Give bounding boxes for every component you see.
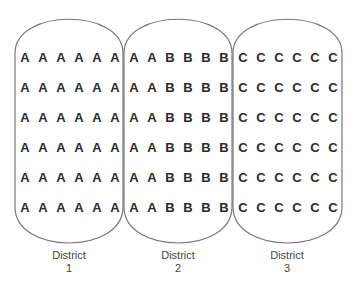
voter-cell: B [183, 50, 192, 65]
district-2-number: 2 [175, 262, 181, 274]
district-1-number: 1 [66, 262, 72, 274]
voter-cell: A [74, 50, 84, 65]
voter-cell: C [274, 80, 284, 95]
voter-cell: A [74, 200, 84, 215]
district-1-outline [15, 19, 123, 243]
voter-cell: C [292, 170, 302, 185]
voter-cell: A [38, 110, 48, 125]
voter-cell: B [183, 170, 192, 185]
voter-cell: C [292, 80, 302, 95]
voter-grid: AAAAAAAAAAAAAAAAAAAAAAAAAAAAAAAAAAAAAABB… [20, 50, 338, 215]
voter-cell: C [292, 200, 302, 215]
voter-cell: A [129, 50, 139, 65]
voter-cell: A [147, 80, 157, 95]
district-3-outline [233, 19, 342, 243]
voter-cell: C [274, 170, 284, 185]
voter-cell: C [274, 110, 284, 125]
voter-cell: B [183, 140, 192, 155]
voter-cell: A [110, 50, 120, 65]
voter-cell: B [219, 140, 228, 155]
voter-cell: B [201, 80, 210, 95]
voter-cell: B [165, 50, 174, 65]
voter-cell: A [129, 80, 139, 95]
voter-cell: B [201, 110, 210, 125]
voter-cell: C [328, 170, 338, 185]
voter-cell: C [256, 110, 266, 125]
voter-cell: A [92, 170, 102, 185]
voter-cell: C [310, 50, 320, 65]
voter-cell: A [56, 50, 66, 65]
voter-cell: C [256, 50, 266, 65]
voter-cell: A [56, 140, 66, 155]
district-3-number: 3 [284, 262, 290, 274]
voter-cell: C [274, 50, 284, 65]
voter-cell: B [219, 110, 228, 125]
voter-cell: C [256, 170, 266, 185]
voter-cell: B [201, 140, 210, 155]
voter-cell: A [110, 140, 120, 155]
voter-cell: A [56, 80, 66, 95]
voter-cell: A [92, 200, 102, 215]
voter-cell: C [292, 110, 302, 125]
district-2-outline [124, 19, 232, 243]
voter-cell: A [74, 170, 84, 185]
voter-cell: B [201, 170, 210, 185]
voter-cell: B [183, 110, 192, 125]
voter-cell: A [147, 50, 157, 65]
voter-cell: C [328, 80, 338, 95]
voter-cell: C [310, 80, 320, 95]
voter-cell: B [165, 110, 174, 125]
voter-cell: A [20, 170, 30, 185]
voter-cell: A [20, 50, 30, 65]
voter-cell: A [20, 200, 30, 215]
voter-cell: C [292, 140, 302, 155]
voter-cell: C [256, 80, 266, 95]
voter-cell: A [38, 200, 48, 215]
voter-cell: A [56, 170, 66, 185]
voter-cell: C [274, 200, 284, 215]
voter-cell: A [92, 140, 102, 155]
voter-cell: C [238, 50, 248, 65]
voter-cell: A [74, 80, 84, 95]
voter-cell: C [328, 200, 338, 215]
voter-cell: B [219, 80, 228, 95]
district-3-label: District [270, 249, 304, 261]
voter-cell: C [310, 140, 320, 155]
voter-cell: B [219, 50, 228, 65]
voter-cell: A [92, 110, 102, 125]
voter-cell: A [20, 110, 30, 125]
voter-cell: A [110, 200, 120, 215]
voter-cell: A [92, 80, 102, 95]
voter-cell: C [238, 80, 248, 95]
voter-cell: B [201, 200, 210, 215]
voter-cell: B [165, 200, 174, 215]
voter-cell: A [129, 200, 139, 215]
voter-cell: C [292, 50, 302, 65]
voter-cell: C [238, 200, 248, 215]
voter-cell: A [92, 50, 102, 65]
voter-cell: C [256, 140, 266, 155]
voter-cell: A [129, 170, 139, 185]
voter-cell: C [274, 140, 284, 155]
voter-cell: C [238, 140, 248, 155]
district-2-label: District [161, 249, 195, 261]
voter-cell: C [310, 110, 320, 125]
voter-cell: A [74, 140, 84, 155]
voter-cell: A [147, 200, 157, 215]
voter-cell: A [147, 170, 157, 185]
voter-cell: A [147, 110, 157, 125]
voter-cell: A [129, 110, 139, 125]
voter-cell: A [147, 140, 157, 155]
voter-cell: C [238, 170, 248, 185]
voter-cell: A [38, 140, 48, 155]
voter-cell: B [165, 80, 174, 95]
voter-cell: C [256, 200, 266, 215]
voter-cell: B [201, 50, 210, 65]
voter-cell: A [74, 110, 84, 125]
district-1-label: District [52, 249, 86, 261]
voter-cell: A [38, 50, 48, 65]
voter-cell: B [165, 170, 174, 185]
voter-cell: A [20, 80, 30, 95]
voter-cell: B [183, 200, 192, 215]
voter-cell: A [20, 140, 30, 155]
